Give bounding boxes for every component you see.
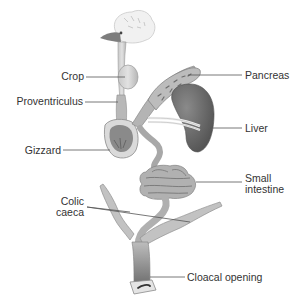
label-cloacal-opening: Cloacal opening [187, 272, 262, 283]
label-proventriculus: Proventriculus [2, 96, 83, 107]
cloaca [130, 280, 156, 294]
label-colic-caeca-line2: caeca [30, 207, 84, 218]
label-small-intestine: Small intestine [245, 173, 284, 195]
label-small-intestine-line2: intestine [245, 184, 284, 195]
label-liver: Liver [245, 123, 268, 134]
gizzard [104, 119, 138, 158]
liver [172, 84, 214, 152]
rectum [132, 242, 150, 284]
small-intestine [140, 165, 196, 199]
label-crop: Crop [20, 71, 84, 82]
intestine-tube [140, 128, 160, 170]
digestive-system-diagram: Crop Proventriculus Gizzard Colic caeca … [0, 0, 303, 302]
label-colic-caeca: Colic caeca [30, 196, 84, 218]
label-pancreas: Pancreas [245, 70, 289, 81]
label-gizzard: Gizzard [10, 145, 61, 156]
bird-head [100, 10, 155, 43]
